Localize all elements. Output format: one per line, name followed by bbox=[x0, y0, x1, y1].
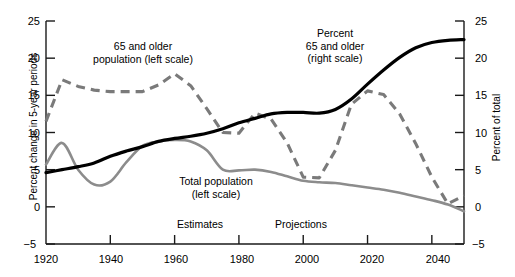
chart-plot-area bbox=[0, 0, 515, 277]
series-line-total-population bbox=[46, 140, 464, 211]
data-series-layer bbox=[46, 40, 464, 212]
series-line-older-population-dashed bbox=[46, 74, 464, 204]
population-change-chart: Percent change in 5-year periods Percent… bbox=[0, 0, 515, 277]
series-line-percent-older-bold bbox=[46, 40, 464, 173]
